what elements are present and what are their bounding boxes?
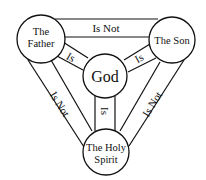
edge-father-spirit-label: Is Not: [48, 89, 73, 118]
node-spirit-line1: The Holy: [86, 142, 127, 153]
trinity-shield-diagram: The Father The Son God The Holy Spirit I…: [0, 0, 206, 180]
node-father-line1: The: [33, 26, 50, 37]
node-god-label: God: [91, 68, 119, 85]
node-father-line2: Father: [28, 38, 55, 49]
node-son-label: The Son: [154, 35, 190, 46]
edge-father-son-label: Is Not: [92, 22, 119, 34]
edge-father-god-label: Is: [65, 50, 78, 64]
node-spirit-line2: Spirit: [94, 154, 117, 165]
edge-son-spirit-label: Is Not: [140, 89, 165, 118]
edge-son-god-label: Is: [133, 51, 146, 65]
edge-spirit-god-label: Is: [99, 107, 111, 115]
